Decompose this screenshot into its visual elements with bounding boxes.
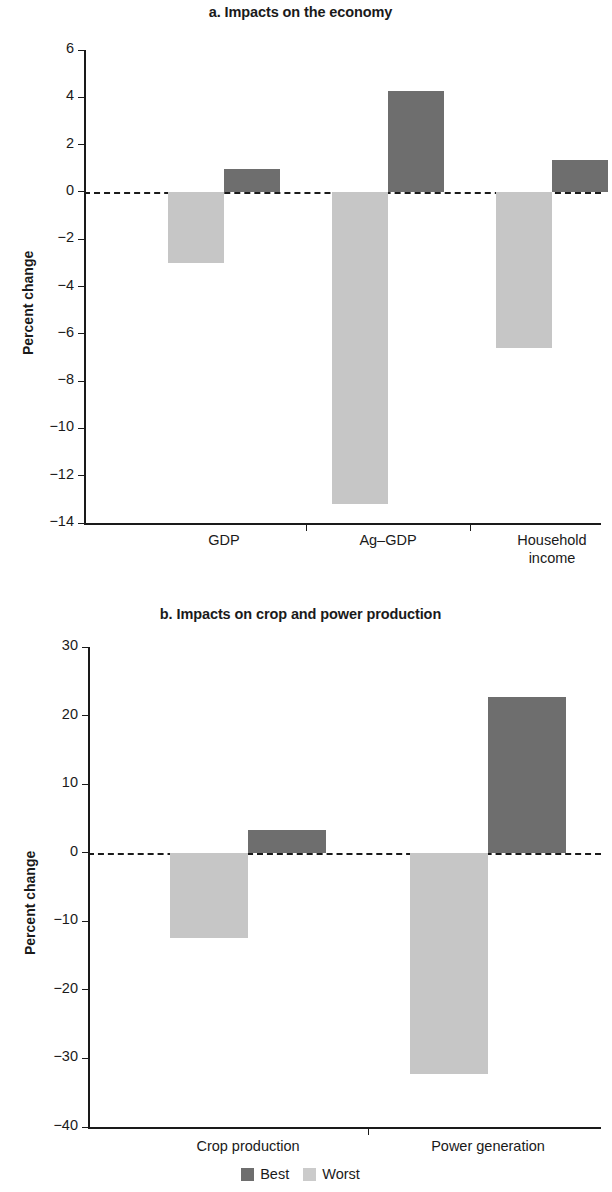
chart-b-title: b. Impacts on crop and power production [0,606,601,622]
y-tick-label: 10 [26,774,78,790]
category-separator-tick [470,523,471,531]
bar-best [552,160,608,192]
legend-item-best[interactable]: Best [241,1166,289,1182]
x-category-label: Ag–GDP [308,531,468,549]
bar-best [248,830,326,853]
y-tick-label: −8 [22,371,74,387]
y-tick-label: −12 [22,466,74,482]
bar-best [488,697,566,853]
bar-best [224,169,280,191]
bar-worst [332,192,388,504]
legend-label: Best [260,1166,289,1182]
y-tick [82,921,88,922]
chart-b-plot-area: 3020100−10−20−30−40Crop productionPower … [88,647,558,1127]
y-tick [78,475,84,476]
y-tick [78,286,84,287]
y-tick-label: −30 [26,1048,78,1064]
y-tick-label: 4 [22,87,74,103]
chart-b-y-axis-label: Percent change [22,851,38,955]
bar-worst [168,192,224,263]
chart-a-title: a. Impacts on the economy [0,4,601,20]
y-tick-label: 6 [22,40,74,56]
y-tick [78,333,84,334]
chart-panel-b: b. Impacts on crop and power production … [0,600,601,1160]
y-tick-label: −40 [26,1117,78,1133]
y-tick [82,715,88,716]
y-tick [82,989,88,990]
bar-worst [410,853,488,1074]
y-tick [78,50,84,51]
bar-worst [170,853,248,939]
x-category-label: Power generation [378,1137,598,1155]
y-axis-line [88,647,90,1127]
legend: BestWorst [0,1166,601,1182]
y-tick-label: 20 [26,706,78,722]
legend-swatch-worst-icon [303,1168,316,1181]
y-tick-label: −4 [22,277,74,293]
y-tick-label: −10 [22,418,74,434]
y-tick [78,523,84,524]
chart-panel-a: a. Impacts on the economy Percent change… [0,0,601,580]
y-tick [78,239,84,240]
bar-best [388,91,444,192]
y-tick [82,784,88,785]
y-tick-label: −10 [26,911,78,927]
x-category-label: Household income [472,531,612,567]
legend-swatch-best-icon [241,1168,254,1181]
y-tick [78,428,84,429]
chart-a-plot-area: 6420−2−4−6−8−10−12−14GDPAg–GDPHousehold … [84,50,576,523]
y-tick [82,1127,88,1128]
legend-item-worst[interactable]: Worst [303,1166,360,1182]
legend-label: Worst [322,1166,360,1182]
y-tick-label: −6 [22,324,74,340]
y-tick-label: 0 [26,843,78,859]
x-category-label: Crop production [138,1137,358,1155]
bar-worst [496,192,552,348]
y-tick-label: 2 [22,135,74,151]
y-tick [78,381,84,382]
x-category-label: GDP [144,531,304,549]
y-tick-label: −20 [26,980,78,996]
x-axis-line [84,523,601,525]
y-tick [78,144,84,145]
y-tick-label: −14 [22,513,74,529]
category-separator-tick [306,523,307,531]
x-axis-line [88,1127,601,1129]
y-tick-label: 30 [26,637,78,653]
y-tick-label: −2 [22,229,74,245]
y-tick-label: 0 [22,182,74,198]
category-separator-tick [368,1127,369,1135]
y-tick [82,1058,88,1059]
zero-reference-line [88,853,601,855]
y-tick [78,97,84,98]
y-axis-line [84,50,86,523]
y-tick [82,647,88,648]
